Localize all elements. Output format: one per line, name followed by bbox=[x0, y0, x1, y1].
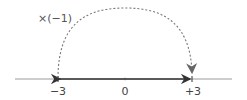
point-label-minus-3: −3 bbox=[50, 85, 66, 98]
point-label-zero: 0 bbox=[122, 85, 129, 98]
dashed-arc-arrow bbox=[58, 8, 192, 78]
operation-label: ×(−1) bbox=[38, 12, 72, 25]
tick-zero bbox=[124, 78, 126, 80]
number-line-diagram: ×(−1) −3 0 +3 bbox=[0, 0, 247, 100]
point-label-plus-3: +3 bbox=[185, 85, 201, 98]
